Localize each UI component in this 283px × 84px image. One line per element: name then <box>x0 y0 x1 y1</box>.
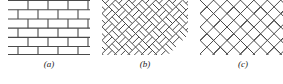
panel-running-bond: (a) <box>8 0 90 69</box>
panel-caption-b: (b) <box>140 60 151 69</box>
diagonal-basketweave-illustration <box>102 0 188 55</box>
masonry-bond-figure: (a) (b) (c) <box>0 0 283 84</box>
panel-diagonal-basketweave: (b) <box>102 0 188 69</box>
panel-caption-a: (a) <box>44 60 55 69</box>
panel-caption-c: (c) <box>238 60 248 69</box>
herringbone-illustration <box>200 0 283 55</box>
herringbone-svg <box>200 0 283 55</box>
running-bond-svg <box>8 0 90 55</box>
panel-herringbone: (c) <box>200 0 283 69</box>
diagonal-basketweave-svg <box>102 0 188 55</box>
running-bond-illustration <box>8 0 90 55</box>
